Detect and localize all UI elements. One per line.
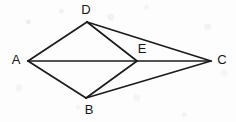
vertex-label-b: B — [85, 102, 94, 117]
label-layer: ADECB — [12, 2, 227, 117]
edge-layer — [28, 22, 211, 98]
vertex-label-d: D — [81, 2, 90, 17]
segment-ad — [28, 22, 87, 61]
figure-canvas: ADECB — [0, 0, 236, 122]
segment-de — [87, 22, 137, 61]
segment-dc — [87, 22, 211, 61]
vertex-label-e: E — [138, 41, 147, 56]
segment-bc — [86, 61, 211, 98]
geometry-figure: ADECB — [0, 0, 236, 122]
vertex-label-c: C — [217, 52, 226, 67]
segment-ab — [28, 61, 86, 98]
segment-be — [86, 61, 137, 98]
vertex-label-a: A — [12, 52, 21, 67]
